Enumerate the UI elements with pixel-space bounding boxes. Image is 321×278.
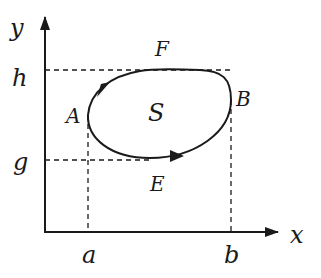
point-label-a: A [64,104,80,128]
point-label-b: B [235,87,251,111]
x-tick-a: a [82,241,96,269]
x-axis-label: x [290,221,304,249]
point-label-f: F [154,37,170,61]
closed-curve-diagram: y x h g a b A B F E S [0,0,321,278]
y-axis-label: y [9,14,24,42]
region-label-s: S [148,99,164,127]
y-tick-g: g [13,148,28,176]
point-label-e: E [149,172,165,196]
direction-arrow-bottom-icon [170,150,184,162]
y-tick-h: h [12,64,27,92]
x-tick-b: b [224,241,239,269]
